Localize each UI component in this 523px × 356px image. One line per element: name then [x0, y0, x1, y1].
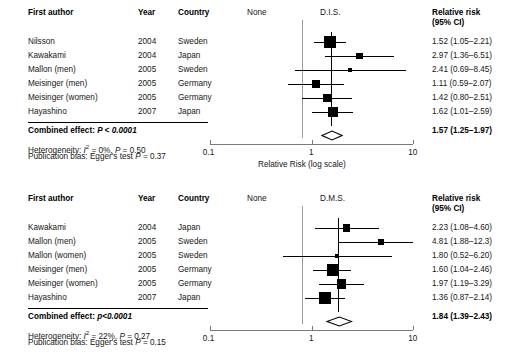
- x-axis-tick-label: 0.1: [203, 148, 214, 157]
- row-country: Sweden: [178, 65, 208, 75]
- pooled-effect-line: [338, 218, 339, 312]
- header-relative-risk: Relative risk: [432, 194, 480, 204]
- x-axis-tick: [312, 140, 313, 144]
- row-author: Mallon (women): [28, 251, 86, 261]
- reference-line-none: [302, 206, 303, 324]
- publication-bias-note: Publication bias: Egger's test P = 0.37: [28, 152, 166, 162]
- effect-box: [356, 53, 363, 60]
- row-relative-risk: 4.81 (1.88–12.3): [432, 237, 492, 247]
- combined-effect-label: Combined effect: P < 0.0001: [28, 126, 137, 136]
- header-country: Country: [178, 8, 209, 18]
- row-year: 2007: [138, 293, 156, 303]
- effect-box: [348, 68, 352, 72]
- row-relative-risk: 2.97 (1.36–6.51): [432, 51, 492, 61]
- row-relative-risk: 1.52 (1.05–2.21): [432, 37, 492, 47]
- reference-line-none: [302, 20, 303, 138]
- row-year: 2004: [138, 223, 156, 233]
- row-relative-risk: 1.60 (1.04–2.46): [432, 265, 492, 275]
- row-relative-risk: 1.11 (0.59–2.07): [432, 79, 491, 89]
- summary-diamond: [321, 127, 343, 145]
- row-country: Sweden: [178, 251, 208, 261]
- header-year: Year: [138, 8, 155, 18]
- table-divider: [28, 122, 208, 123]
- row-year: 2005: [138, 79, 156, 89]
- row-author: Mallon (men): [28, 237, 76, 247]
- row-relative-risk: 1.97 (1.19–3.29): [432, 279, 492, 289]
- row-author: Kawakami: [28, 223, 66, 233]
- row-relative-risk: 1.80 (0.52–6.20): [432, 251, 492, 261]
- x-axis-tick: [210, 140, 211, 144]
- combined-effect-pvalue: P < 0.0001: [97, 126, 137, 135]
- table-divider: [28, 308, 208, 309]
- row-author: Meisinger (women): [28, 279, 98, 289]
- row-author: Nilsson: [28, 37, 55, 47]
- row-year: 2007: [138, 107, 156, 117]
- row-country: Germany: [178, 265, 212, 275]
- row-year: 2005: [138, 279, 156, 289]
- header-first-author: First author: [28, 8, 74, 18]
- publication-bias-note: Publication bias: Egger's test P = 0.15: [28, 338, 166, 348]
- forest-panel-dis: 0.1110Relative Risk (log scale) First au…: [0, 0, 523, 180]
- row-year: 2004: [138, 51, 156, 61]
- row-relative-risk: 2.23 (1.08–4.60): [432, 223, 492, 233]
- row-year: 2005: [138, 265, 156, 275]
- summary-diamond: [326, 313, 353, 331]
- effect-box: [324, 36, 336, 48]
- header-relative-risk: Relative risk: [432, 8, 480, 18]
- x-axis-tick-label: 1: [309, 334, 314, 343]
- row-author: Hayashino: [28, 107, 67, 117]
- row-country: Sweden: [178, 37, 208, 47]
- header-first-author: First author: [28, 194, 74, 204]
- row-country: Japan: [178, 51, 200, 61]
- combined-effect-label: Combined effect: p<0.0001: [28, 312, 132, 322]
- row-country: Germany: [178, 279, 212, 289]
- x-axis: [210, 330, 413, 331]
- label-group: D.M.S.: [320, 194, 345, 204]
- row-year: 2005: [138, 65, 156, 75]
- row-year: 2005: [138, 93, 156, 103]
- header-ci: (95% CI): [432, 18, 464, 28]
- row-country: Sweden: [178, 237, 208, 247]
- pooled-effect-line: [331, 32, 332, 126]
- effect-box: [343, 224, 350, 231]
- row-author: Meisinger (women): [28, 93, 98, 103]
- row-author: Meisinger (men): [28, 79, 87, 89]
- combined-relative-risk: 1.84 (1.39–2.43): [432, 312, 492, 322]
- row-relative-risk: 1.36 (0.87–2.14): [432, 293, 492, 303]
- x-axis-title: Relative Risk (log scale): [258, 160, 346, 169]
- row-relative-risk: 1.42 (0.80–2.51): [432, 93, 492, 103]
- combined-relative-risk: 1.57 (1.25–1.97): [432, 126, 492, 136]
- effect-box: [378, 239, 384, 245]
- row-relative-risk: 1.62 (1.01–2.59): [432, 107, 492, 117]
- x-axis-tick-label: 1: [309, 148, 314, 157]
- row-author: Hayashino: [28, 293, 67, 303]
- x-axis: [210, 144, 413, 145]
- row-author: Meisinger (men): [28, 265, 87, 275]
- row-country: Germany: [178, 79, 212, 89]
- forest-panel-dms: 0.1110 First authorYearCountryRelative r…: [0, 186, 523, 356]
- x-axis-tick: [413, 140, 414, 144]
- row-author: Kawakami: [28, 51, 66, 61]
- label-group: D.I.S.: [320, 8, 340, 18]
- effect-box: [328, 107, 338, 117]
- header-country: Country: [178, 194, 209, 204]
- x-axis-tick-label: 10: [408, 148, 417, 157]
- row-country: Japan: [178, 223, 200, 233]
- label-reference-none: None: [247, 194, 267, 204]
- label-reference-none: None: [247, 8, 267, 18]
- x-axis-tick: [210, 326, 211, 330]
- x-axis-tick: [413, 326, 414, 330]
- effect-box: [323, 94, 331, 102]
- x-axis-tick-label: 10: [408, 334, 417, 343]
- row-country: Japan: [178, 293, 200, 303]
- row-author: Mallon (men): [28, 65, 76, 75]
- row-year: 2005: [138, 251, 156, 261]
- row-year: 2005: [138, 237, 156, 247]
- header-year: Year: [138, 194, 155, 204]
- row-relative-risk: 2.41 (0.69–8.45): [432, 65, 492, 75]
- effect-box: [312, 80, 320, 88]
- header-ci: (95% CI): [432, 204, 464, 214]
- ci-line: [339, 242, 413, 243]
- effect-box: [327, 264, 338, 275]
- row-country: Germany: [178, 93, 212, 103]
